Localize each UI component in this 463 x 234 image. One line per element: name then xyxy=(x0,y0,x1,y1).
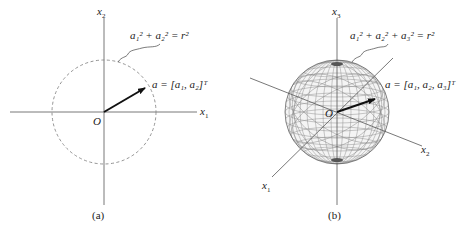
caption-b: (b) xyxy=(328,210,341,221)
caption-a: (a) xyxy=(92,210,104,221)
equation-leader-line xyxy=(118,44,160,62)
equation-leader-line-b xyxy=(352,44,388,62)
vector-arrow-a xyxy=(104,88,145,112)
circle-equation: a₁² + a₂² = r² xyxy=(130,30,189,41)
x3-axis-label: x3 xyxy=(332,6,340,20)
x1-axis-label: x1 xyxy=(200,106,208,120)
vector-label-b: a = [a₁, a₂, a₃]ᵀ xyxy=(385,79,455,90)
x2-axis-label: x2 xyxy=(97,6,105,20)
panel-a-axes xyxy=(10,18,197,205)
x2-axis-label-3d: x2 xyxy=(421,144,429,158)
origin-label-a: O xyxy=(93,116,101,127)
x1-axis-label-3d: x1 xyxy=(262,180,270,194)
sphere-equation: a₁² + a₂² + a₃² = r² xyxy=(350,30,434,41)
vector-label-a: a = [a₁, a₂]ᵀ xyxy=(152,79,207,90)
origin-label-b: O xyxy=(325,108,333,119)
